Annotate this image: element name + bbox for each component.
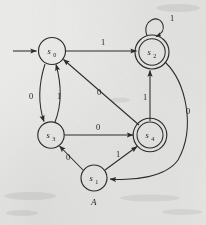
state-node-s2[interactable]: s 2 <box>135 35 169 69</box>
state-subscript-s3: 3 <box>52 135 55 142</box>
state-subscript-s2: 2 <box>153 52 156 59</box>
state-node-s4[interactable]: s 4 <box>133 118 167 152</box>
edge-label-s2-self: 1 <box>170 14 174 23</box>
edge-label-s0-s2: 1 <box>101 38 105 47</box>
edge-label-s4-s2: 1 <box>143 93 147 102</box>
state-label-s3: s <box>47 130 51 140</box>
state-subscript-s0: 0 <box>53 51 56 58</box>
edge-s1-s4 <box>105 147 137 171</box>
state-label-s1: s <box>90 173 94 183</box>
fsm-diagram-canvas: s 0 s 2 s 3 s 4 s <box>0 0 206 225</box>
state-subscript-s4: 4 <box>151 135 154 142</box>
edge-s2-self <box>146 19 163 37</box>
edge-label-s4-s0: 0 <box>97 88 101 97</box>
fsm-figure: s 0 s 2 s 3 s 4 s <box>0 0 206 225</box>
edge-s0-s3 <box>40 64 45 122</box>
state-node-s0[interactable]: s 0 <box>39 38 66 65</box>
edge-label-s1-s3: 0 <box>66 153 70 162</box>
state-node-s1[interactable]: s 1 <box>81 165 107 191</box>
figure-caption: A <box>90 197 97 207</box>
edge-label-s1-s4: 1 <box>116 150 120 159</box>
edge-label-s0-s3: 0 <box>29 92 33 101</box>
edge-label-s3-s0: 1 <box>57 92 61 101</box>
state-label-s0: s <box>48 46 52 56</box>
state-subscript-s1: 1 <box>95 178 98 185</box>
state-node-s3[interactable]: s 3 <box>38 122 64 148</box>
state-label-s2: s <box>148 47 152 57</box>
edge-s4-s0 <box>64 60 140 126</box>
edge-s1-s3 <box>60 146 84 170</box>
scan-artifacts <box>4 4 202 216</box>
edge-label-s2-s1: 0 <box>186 107 190 116</box>
edge-label-s3-s4: 0 <box>96 123 100 132</box>
state-label-s4: s <box>146 130 150 140</box>
edge-s2-s1 <box>110 62 187 179</box>
